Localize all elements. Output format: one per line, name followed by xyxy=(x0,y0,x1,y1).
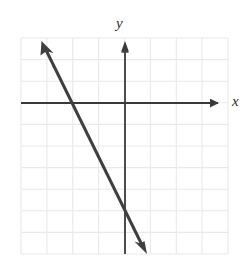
x-axis-label: x xyxy=(232,94,239,109)
graph-figure: y x xyxy=(0,0,250,268)
y-axis-label: y xyxy=(116,16,123,31)
coordinate-plane-svg xyxy=(0,0,250,268)
